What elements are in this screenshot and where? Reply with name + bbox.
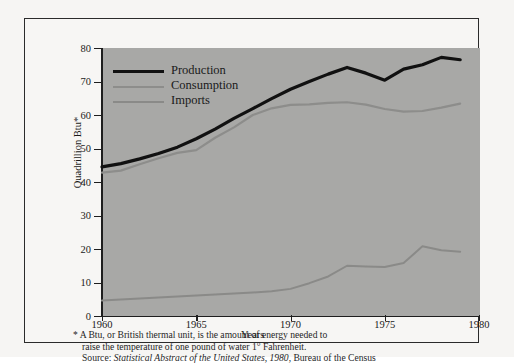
legend-swatch-imports <box>113 101 164 103</box>
footnote-line-2: raise the temperature of one pound of wa… <box>73 341 493 353</box>
legend-label-imports: Imports <box>171 93 210 108</box>
footnote-line-1: * A Btu, or British thermal unit, is the… <box>73 329 493 341</box>
chart-footnotes: * A Btu, or British thermal unit, is the… <box>73 329 493 364</box>
source-line: Source: Statistical Abstract of the Unit… <box>73 352 493 364</box>
source-title: Statistical Abstract of the United State… <box>114 352 289 363</box>
legend-label-production: Production <box>171 63 226 78</box>
legend: Production Consumption Imports <box>113 64 283 109</box>
source-prefix: Source: <box>82 352 114 363</box>
legend-label-consumption: Consumption <box>171 78 238 93</box>
chart-frame: 80 70 60 50 40 30 20 10 0 1960 1965 1970… <box>24 18 479 343</box>
legend-swatch-consumption <box>113 86 164 88</box>
legend-swatch-production <box>113 70 164 73</box>
line-imports <box>102 246 460 300</box>
legend-item-production: Production <box>113 64 283 79</box>
source-suffix: , Bureau of the Census <box>289 352 376 363</box>
legend-item-imports: Imports <box>113 94 283 109</box>
line-consumption <box>102 102 460 172</box>
legend-item-consumption: Consumption <box>113 79 283 94</box>
